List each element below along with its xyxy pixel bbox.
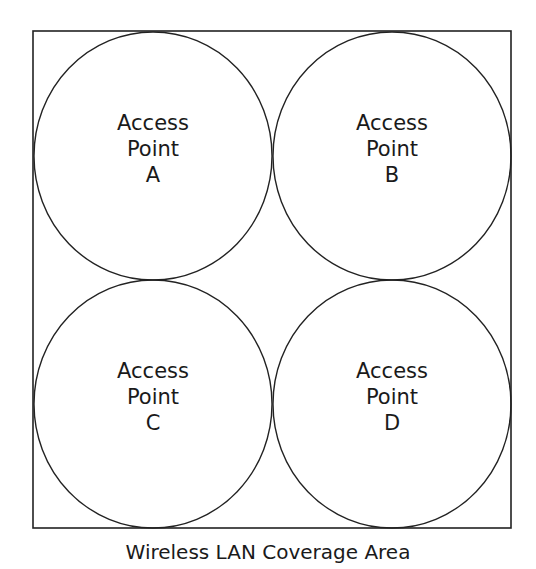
coverage-diagram bbox=[0, 0, 536, 569]
access-point-b-id: B bbox=[312, 162, 472, 188]
access-point-d-line1: Access bbox=[312, 358, 472, 384]
access-point-c-label: Access Point C bbox=[73, 358, 233, 436]
access-point-c-line1: Access bbox=[73, 358, 233, 384]
diagram-caption: Wireless LAN Coverage Area bbox=[0, 540, 536, 564]
access-point-a-label: Access Point A bbox=[73, 110, 233, 188]
access-point-d-label: Access Point D bbox=[312, 358, 472, 436]
access-point-c-id: C bbox=[73, 410, 233, 436]
access-point-a-line2: Point bbox=[73, 136, 233, 162]
access-point-d-id: D bbox=[312, 410, 472, 436]
access-point-d-line2: Point bbox=[312, 384, 472, 410]
access-point-a-line1: Access bbox=[73, 110, 233, 136]
access-point-b-line2: Point bbox=[312, 136, 472, 162]
coverage-area-boundary bbox=[33, 31, 511, 528]
access-point-b-label: Access Point B bbox=[312, 110, 472, 188]
access-point-a-id: A bbox=[73, 162, 233, 188]
access-point-c-line2: Point bbox=[73, 384, 233, 410]
access-point-b-line1: Access bbox=[312, 110, 472, 136]
